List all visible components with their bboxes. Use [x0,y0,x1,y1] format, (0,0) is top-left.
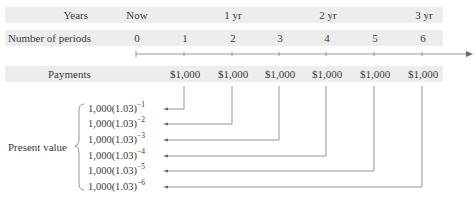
pv-term-1: 1,000(1.03)−1 [88,102,145,116]
discount-line-4 [166,86,326,156]
pv-term-3: 1,000(1.03)−3 [88,133,145,147]
pv-term-5: 1,000(1.03)−5 [88,164,145,178]
brace-icon [75,104,84,190]
present-value-label: Present value [8,140,67,154]
pv-term-4: 1,000(1.03)−4 [88,149,145,163]
axis-arrowhead-icon [466,51,473,57]
timeline-graphic [0,0,476,201]
discount-line-1 [166,86,184,109]
pv-term-6: 1,000(1.03)−6 [88,180,145,194]
discount-line-3 [166,86,279,140]
pv-term-2: 1,000(1.03)−2 [88,117,145,131]
discount-line-2 [166,86,232,124]
discount-line-5 [166,86,374,171]
discount-line-6 [166,86,422,187]
